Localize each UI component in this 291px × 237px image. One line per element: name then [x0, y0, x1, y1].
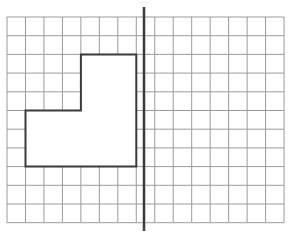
reflection-grid-diagram — [0, 0, 291, 237]
